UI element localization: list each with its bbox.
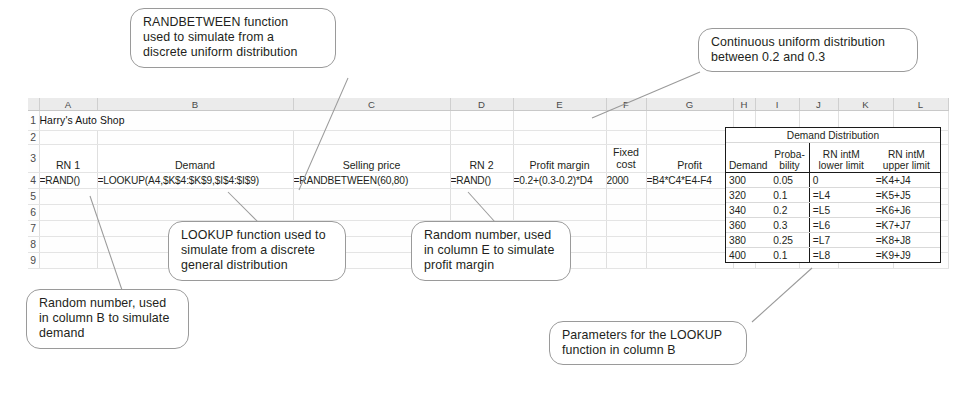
callout-randbetween-line2: used to simulate from a: [143, 30, 324, 45]
figure-canvas: A B C D E F G H I J K L 1 Harry's Auto S…: [0, 0, 958, 402]
leader-parameters: [752, 268, 812, 322]
callout-rn1-line1: Random number, used: [39, 296, 177, 311]
callout-parameters: Parameters for the LOOKUP function in co…: [549, 321, 747, 365]
leader-lookup: [228, 192, 258, 222]
leader-continuous: [592, 72, 700, 118]
callout-randbetween-line1: RANDBETWEEN function: [143, 15, 324, 30]
callout-continuous-line1: Continuous uniform distribution: [711, 35, 906, 50]
callout-randbetween: RANDBETWEEN function used to simulate fr…: [130, 8, 336, 68]
callout-rn2-line3: profit margin: [424, 258, 559, 273]
callout-continuous-uniform: Continuous uniform distribution between …: [698, 28, 918, 72]
callout-lookup-line1: LOOKUP function used to: [181, 228, 334, 243]
callout-continuous-line2: between 0.2 and 0.3: [711, 50, 906, 65]
callout-rn2: Random number, used in column E to simul…: [411, 221, 571, 281]
callout-rn2-line2: in column E to simulate: [424, 243, 559, 258]
leader-randbetween: [299, 78, 348, 190]
callout-lookup: LOOKUP function used to simulate from a …: [168, 221, 346, 281]
callout-rn2-line1: Random number, used: [424, 228, 559, 243]
leader-rn2: [468, 192, 495, 222]
callout-lookup-line2: simulate from a discrete: [181, 243, 334, 258]
callout-parameters-line1: Parameters for the LOOKUP: [562, 328, 735, 343]
callout-lookup-line3: general distribution: [181, 258, 334, 273]
callout-parameters-line2: function in column B: [562, 343, 735, 358]
callout-rn1-line2: in column B to simulate: [39, 311, 177, 326]
callout-rn1: Random number, used in column B to simul…: [26, 289, 189, 349]
callout-randbetween-line3: discrete uniform distribution: [143, 45, 324, 60]
callout-rn1-line3: demand: [39, 326, 177, 341]
leader-rn1: [90, 196, 122, 290]
